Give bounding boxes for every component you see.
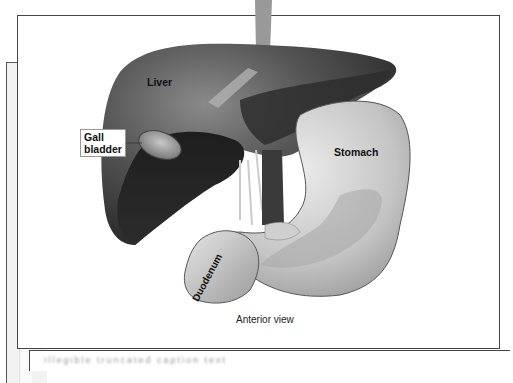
esophagus	[255, 0, 272, 52]
lower-caption-panel: Illegible truncated caption text	[29, 350, 510, 371]
aorta	[262, 150, 284, 225]
view-caption: Anterior view	[236, 314, 294, 325]
stomach-label: Stomach	[334, 146, 378, 158]
gallbladder-label: Gall bladder	[80, 129, 126, 157]
gallbladder-label-line1: Gall	[84, 131, 122, 143]
liver-label: Liver	[147, 76, 172, 88]
truncated-caption: Illegible truncated caption text	[44, 355, 504, 365]
gallbladder-label-line2: bladder	[84, 143, 122, 155]
